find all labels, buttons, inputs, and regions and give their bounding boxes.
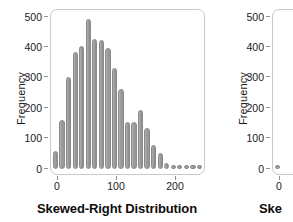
x-tick-label-100: 100 (104, 181, 128, 192)
histogram-bar (158, 153, 163, 169)
histogram-bar (131, 122, 136, 169)
y-tick-label-400: 400 (16, 42, 42, 52)
histogram-bar (112, 68, 117, 169)
histogram-bars (273, 12, 293, 169)
y-tick-label-0: 0 (238, 164, 264, 174)
histogram-bar (190, 165, 195, 169)
histogram-bar (59, 120, 64, 169)
histogram-bar (197, 165, 202, 169)
chart-panel-left: Frequency 500 400 300 200 100 0 0 100 20… (0, 0, 216, 222)
y-tick-mark (44, 107, 48, 108)
histogram-bar (125, 122, 130, 169)
y-tick-label-200: 200 (16, 103, 42, 113)
chart-screenshot: Frequency 500 400 300 200 100 0 0 100 20… (0, 0, 293, 222)
histogram-bar (73, 52, 78, 169)
histogram-bar (86, 19, 91, 169)
y-tick-label-500: 500 (16, 12, 42, 22)
y-tick-label-500: 500 (238, 12, 264, 22)
chart-panel-right: Frequency 500 400 300 200 100 0 0 Ske (222, 0, 293, 222)
y-tick-label-100: 100 (16, 133, 42, 143)
x-tick-label-0: 0 (267, 181, 291, 192)
chart-title-right: Ske (259, 201, 282, 216)
y-tick-mark (44, 16, 48, 17)
histogram-bar (171, 165, 176, 169)
histogram-bar (118, 89, 123, 169)
histogram-bar (79, 46, 84, 169)
histogram-bar (177, 165, 182, 169)
y-tick-mark (266, 16, 270, 17)
histogram-bar (184, 165, 189, 169)
y-tick-mark (44, 168, 48, 169)
y-tick-mark (266, 168, 270, 169)
histogram-bar (151, 145, 156, 169)
x-tick-label-0: 0 (45, 181, 69, 192)
y-tick-mark (44, 137, 48, 138)
x-tick-label-200: 200 (163, 181, 187, 192)
histogram-bar (66, 77, 71, 169)
chart-title-left: Skewed-Right Distribution (37, 201, 197, 216)
histogram-bar (53, 151, 58, 169)
y-tick-mark (266, 46, 270, 47)
y-tick-mark (266, 107, 270, 108)
y-tick-label-0: 0 (16, 164, 42, 174)
histogram-bar (92, 39, 97, 169)
histogram-bar (105, 48, 110, 169)
y-tick-mark (266, 76, 270, 77)
y-tick-mark (266, 137, 270, 138)
histogram-bar (164, 163, 169, 169)
y-tick-label-400: 400 (238, 42, 264, 52)
histogram-bar (99, 40, 104, 169)
histogram-bar (138, 110, 143, 169)
y-tick-mark (44, 46, 48, 47)
y-tick-label-300: 300 (238, 72, 264, 82)
y-tick-label-200: 200 (238, 103, 264, 113)
y-tick-mark (44, 76, 48, 77)
histogram-bar (144, 128, 149, 169)
y-tick-label-100: 100 (238, 133, 264, 143)
y-tick-label-300: 300 (16, 72, 42, 82)
histogram-bars (51, 12, 204, 169)
histogram-bar (275, 165, 280, 169)
